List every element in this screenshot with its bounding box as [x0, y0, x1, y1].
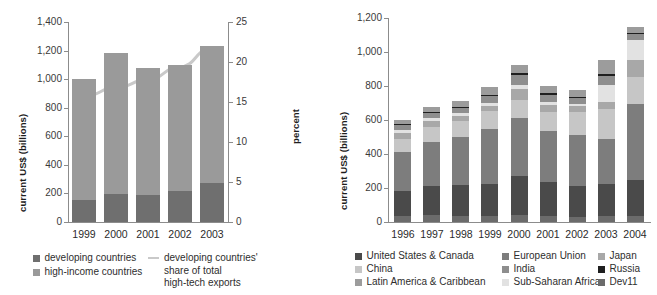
- left-bar-segment: [136, 195, 160, 222]
- left-bar: [168, 65, 192, 222]
- right-legend-label: Russia: [610, 263, 641, 276]
- left-x-axis: [68, 222, 229, 223]
- right-bar-segment: [540, 131, 557, 182]
- left-bar-segment: [200, 46, 224, 184]
- right-legend-item[interactable]: India: [502, 263, 535, 276]
- legend-color-swatch: [355, 253, 362, 260]
- right-y-tick: [384, 188, 388, 189]
- left-y2-tick-label: 10: [236, 136, 266, 147]
- right-bar-segment: [481, 111, 498, 130]
- legend-color-swatch: [502, 279, 509, 286]
- right-bar-segment: [481, 96, 498, 103]
- right-x-axis: [388, 222, 651, 223]
- right-y-tick: [384, 154, 388, 155]
- left-legend-item[interactable]: high-income countries: [33, 266, 142, 279]
- legend-color-swatch: [502, 266, 509, 273]
- left-y-tick: [64, 79, 68, 80]
- right-bar-segment: [511, 100, 528, 119]
- right-legend-label: Latin America & Caribbean: [367, 276, 486, 289]
- left-bar-segment: [168, 65, 192, 191]
- right-bar-segment: [627, 77, 644, 104]
- legend-color-swatch: [598, 266, 605, 273]
- right-legend-item[interactable]: European Union: [502, 250, 586, 263]
- right-bar-segment: [511, 215, 528, 222]
- right-bar-segment: [627, 60, 644, 77]
- right-legend-label: European Union: [514, 250, 586, 263]
- left-y2-tick: [229, 142, 233, 143]
- right-bar-segment: [452, 137, 469, 185]
- right-y-tick-label: 200: [338, 182, 382, 193]
- right-bar-segment: [598, 85, 615, 102]
- left-legend-item[interactable]: developing countries' share of total hig…: [148, 252, 258, 290]
- right-bar-segment: [627, 216, 644, 222]
- right-bar: [481, 87, 498, 222]
- figure-root: current US$ (billions) percent developin…: [0, 0, 657, 295]
- left-y2-tick-label: 25: [236, 16, 266, 27]
- right-legend-item[interactable]: Latin America & Caribbean: [355, 276, 485, 289]
- right-bar-segment: [452, 185, 469, 216]
- left-y-tick: [64, 136, 68, 137]
- left-legend-item[interactable]: developing countries: [33, 252, 136, 265]
- right-bar-segment: [569, 217, 586, 222]
- right-bar-segment: [423, 215, 440, 222]
- left-bar: [136, 68, 160, 222]
- left-y-tick: [64, 193, 68, 194]
- left-legend-label: developing countries: [45, 252, 137, 265]
- right-bar-segment: [598, 184, 615, 216]
- right-legend-label: India: [514, 263, 536, 276]
- right-bar-segment: [394, 139, 411, 153]
- right-y-tick: [384, 120, 388, 121]
- right-bar-segment: [540, 86, 557, 94]
- left-y-tick-label: 0: [20, 216, 62, 227]
- right-y-tick-label: 600: [338, 114, 382, 125]
- right-legend-item[interactable]: Japan: [598, 250, 637, 263]
- right-legend-item[interactable]: China: [355, 263, 393, 276]
- right-bar-segment: [540, 182, 557, 216]
- left-y-tick-label: 800: [20, 102, 62, 113]
- right-legend-label: Sub-Saharan Africa: [514, 276, 601, 289]
- left-y-tick-label: 200: [20, 187, 62, 198]
- right-legend-label: China: [367, 263, 393, 276]
- right-bar-segment: [423, 127, 440, 142]
- right-bar: [423, 107, 440, 222]
- right-bar-segment: [394, 216, 411, 222]
- left-y-tick: [64, 165, 68, 166]
- right-legend-label: Dev11: [610, 276, 638, 289]
- right-bar-segment: [598, 139, 615, 184]
- left-y2-tick: [229, 222, 233, 223]
- right-bar: [394, 120, 411, 222]
- right-legend-item[interactable]: Russia: [598, 263, 640, 276]
- right-bar-segment: [598, 102, 615, 109]
- right-bar-segment: [452, 121, 469, 137]
- right-legend-label: Japan: [610, 250, 637, 263]
- right-y-axis: [388, 18, 389, 223]
- right-x-tick-label: 2004: [615, 228, 655, 240]
- right-bar: [452, 101, 469, 222]
- left-bar-segment: [72, 200, 96, 222]
- left-legend-label: developing countries' share of total hig…: [164, 252, 258, 290]
- right-legend-label: United States & Canada: [367, 250, 474, 263]
- right-bar-segment: [569, 90, 586, 97]
- left-bar-segment: [200, 183, 224, 222]
- right-bar: [627, 27, 644, 222]
- left-y2-tick-label: 20: [236, 56, 266, 67]
- left-y-tick: [64, 108, 68, 109]
- right-bar-segment: [394, 191, 411, 216]
- right-legend-item[interactable]: Dev11: [598, 276, 638, 289]
- right-legend-item[interactable]: Sub-Saharan Africa: [502, 276, 600, 289]
- legend-color-swatch: [33, 255, 40, 262]
- right-bar-segment: [511, 176, 528, 215]
- legend-color-swatch: [33, 269, 40, 276]
- right-y-tick: [384, 18, 388, 19]
- right-y-tick-label: 1,000: [338, 46, 382, 57]
- left-bar-segment: [104, 194, 128, 222]
- right-bar-segment: [481, 129, 498, 183]
- right-bar-segment: [423, 142, 440, 186]
- legend-line-swatch: [148, 257, 159, 260]
- left-y2-axis: [228, 22, 229, 223]
- right-bar: [569, 90, 586, 222]
- right-y-tick-label: 800: [338, 80, 382, 91]
- left-y2-tick-label: 0: [236, 216, 266, 227]
- chart-right: current US$ (billions) United States & C…: [330, 0, 657, 295]
- right-legend-item[interactable]: United States & Canada: [355, 250, 474, 263]
